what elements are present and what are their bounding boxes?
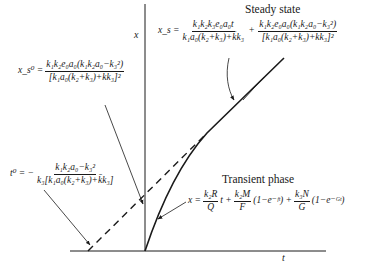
eq-fraction: k₁k₂e₀a₀(k₁k₂a₀−k₃²) [k₁a₀(k₂+k₃)+k̄k₃]² bbox=[258, 20, 337, 42]
response-curve bbox=[145, 58, 284, 251]
eq-numerator: k₃N bbox=[294, 190, 310, 202]
eq-numerator: k₂M bbox=[234, 190, 251, 202]
eq-denominator: [k₁a₀(k₂+k₃)+k̄k₃]² bbox=[48, 72, 122, 83]
eq-denominator: F bbox=[239, 202, 247, 213]
eq-plus: + bbox=[247, 26, 256, 36]
y-axis-label: x bbox=[134, 30, 138, 40]
eq-denominator: Q bbox=[206, 202, 215, 213]
eq-lhs: x_s = bbox=[158, 26, 179, 36]
eq-lhs: x = bbox=[188, 196, 201, 206]
eq-denominator: k₁a₀(k₂+k₃)+k̄k₃ bbox=[181, 32, 245, 43]
x-axis-label: t bbox=[282, 253, 285, 263]
eq-numerator: k₁k₂a₀−k₃² bbox=[54, 163, 96, 175]
steady-state-equation: x_s = k₁k₂k₃e₀a₀t k₁a₀(k₂+k₃)+k̄k₃ + k₁k… bbox=[158, 20, 339, 42]
eq-denominator: [k₁a₀(k₂+k₃)+k̄k₃]² bbox=[261, 32, 335, 43]
eq-denominator: G bbox=[297, 202, 306, 213]
eq-numerator: k₂R bbox=[203, 190, 218, 202]
eq-fraction: k₂R Q bbox=[203, 190, 218, 212]
transient-phase-title: Transient phase bbox=[222, 174, 294, 186]
eq-term-tail: (1−e⁻ᴳᵗ) bbox=[312, 196, 345, 206]
eq-fraction: k₁k₂e₀a₀(k₁k₂a₀−k₃²) [k₁a₀(k₂+k₃)+k̄k₃]² bbox=[45, 60, 124, 82]
eq-fraction: k₂M F bbox=[234, 190, 251, 212]
eq-term-tail: (1−e⁻ᶠᵗ) + bbox=[253, 196, 292, 206]
t0-intercept-equation: t⁰ = − k₁k₂a₀−k₃² k₃[k₁a₀(k₂+k₃)+k̄k₃] bbox=[10, 163, 116, 185]
xs0-intercept-equation: x_s⁰ = k₁k₂e₀a₀(k₁k₂a₀−k₃²) [k₁a₀(k₂+k₃)… bbox=[18, 60, 126, 82]
eq-fraction: k₁k₂a₀−k₃² k₃[k₁a₀(k₂+k₃)+k̄k₃] bbox=[36, 163, 114, 185]
eq-numerator: k₁k₂e₀a₀(k₁k₂a₀−k₃²) bbox=[45, 60, 124, 72]
eq-lhs: t⁰ = − bbox=[10, 169, 34, 179]
xs0-callout-arrow bbox=[105, 105, 143, 204]
eq-numerator: k₁k₂e₀a₀(k₁k₂a₀−k₃²) bbox=[258, 20, 337, 32]
eq-fraction: k₃N G bbox=[294, 190, 310, 212]
eq-term-tail: t + bbox=[220, 196, 231, 206]
steady-state-term2-callout bbox=[243, 77, 264, 100]
steady-state-callout-arrow bbox=[227, 58, 234, 100]
eq-numerator: k₁k₂k₃e₀a₀t bbox=[192, 20, 235, 32]
eq-fraction: k₁k₂k₃e₀a₀t k₁a₀(k₂+k₃)+k̄k₃ bbox=[181, 20, 245, 42]
eq-lhs: x_s⁰ = bbox=[18, 66, 43, 76]
steady-state-title: Steady state bbox=[245, 4, 300, 16]
t0-callout-arrow bbox=[44, 190, 90, 245]
eq-denominator: k₃[k₁a₀(k₂+k₃)+k̄k₃] bbox=[36, 175, 114, 186]
transient-equation: x = k₂R Q t + k₂M F (1−e⁻ᶠᵗ) + k₃N G (1−… bbox=[188, 190, 344, 212]
